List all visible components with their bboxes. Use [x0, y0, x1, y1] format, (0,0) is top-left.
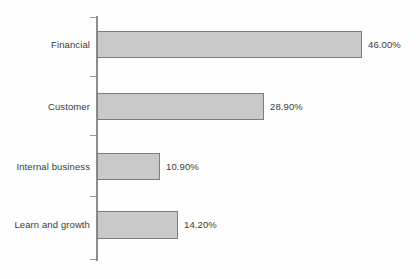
bar-chart: Financial 46.00% Customer 28.90% Interna…: [0, 0, 420, 279]
axis-tick: [90, 135, 96, 136]
category-label: Internal business: [16, 161, 90, 172]
bar-value-label: 10.90%: [166, 161, 199, 172]
bar-value-label: 46.00%: [368, 39, 401, 50]
bar-value-label: 14.20%: [184, 219, 217, 230]
bar-financial: [97, 31, 362, 58]
bar-learn-and-growth: [97, 211, 178, 239]
category-label: Financial: [51, 39, 90, 50]
bar-customer: [97, 93, 264, 120]
category-label: Customer: [48, 101, 90, 112]
axis-tick: [90, 17, 96, 18]
bar-value-label: 28.90%: [270, 101, 303, 112]
axis-tick: [90, 196, 96, 197]
bar-row: Internal business 10.90%: [0, 153, 420, 180]
bar-row: Learn and growth 14.20%: [0, 211, 420, 239]
category-label: Learn and growth: [14, 219, 90, 230]
bar-row: Customer 28.90%: [0, 93, 420, 120]
bar-internal-business: [97, 153, 160, 180]
axis-tick: [90, 259, 96, 260]
bar-row: Financial 46.00%: [0, 31, 420, 58]
axis-tick: [90, 76, 96, 77]
